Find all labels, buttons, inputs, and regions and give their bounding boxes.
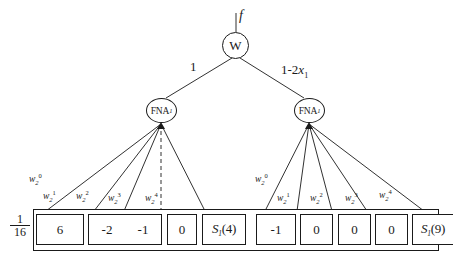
weight-sub: 2 — [261, 179, 264, 186]
tape-cell-right-4[interactable]: S1(9) — [412, 214, 453, 245]
fna-node-right-subscript: 1 — [317, 107, 320, 114]
weight-label-right-4: w24 — [379, 188, 392, 202]
tape-cell-right-0[interactable]: -1 — [256, 214, 296, 245]
tape-cell-function: S1(9) — [421, 221, 445, 238]
tape-cell-value: -1 — [271, 222, 282, 238]
weight-sup: 1 — [53, 189, 56, 196]
weight-sub: 2 — [283, 198, 286, 205]
branch-label-left: 1 — [190, 59, 197, 75]
weight-label-left-0: w20 — [29, 172, 42, 186]
weight-label-right-1: w21 — [277, 191, 290, 205]
tape-cell-value: 6 — [57, 222, 64, 238]
edge-root-to-fna-left — [166, 58, 232, 98]
diagram-canvas: f W 1 1-2x1 FNA1 FNA1 w20 w21 w22 w23 w2… — [0, 0, 453, 258]
fna-node-right[interactable]: FNA1 — [294, 98, 325, 123]
weight-sup: 0 — [39, 172, 42, 179]
weight-sub: 2 — [316, 198, 319, 205]
weight-label-left-1: w21 — [43, 189, 56, 203]
weight-sup: 3 — [355, 191, 358, 198]
tape-cell-fn-arg: (4) — [222, 221, 236, 236]
weight-sup: 1 — [287, 191, 290, 198]
weight-sub: 2 — [151, 198, 154, 205]
tape-cell-value: 0 — [313, 222, 320, 238]
tape-cell-left-4[interactable]: S1(4) — [202, 214, 246, 245]
weight-sup: 4 — [155, 191, 158, 198]
weight-label-right-0: w20 — [255, 172, 268, 186]
weight-sup: 2 — [86, 189, 89, 196]
weight-sub: 2 — [35, 179, 38, 186]
branch-label-right: 1-2x1 — [281, 62, 308, 80]
weight-label-left-3: w23 — [108, 191, 121, 205]
coefficient-fraction: 1 16 — [10, 213, 30, 238]
function-label-f: f — [239, 8, 243, 24]
root-node-w[interactable]: W — [222, 32, 249, 59]
tape-cell-left-1-2[interactable]: -2 -1 — [88, 214, 162, 245]
edge-right-w1 — [297, 124, 309, 211]
weight-label-left-4: w24 — [145, 191, 158, 205]
tape-cell-right-2[interactable]: 0 — [338, 214, 371, 245]
fna-node-left-subscript: 1 — [169, 107, 172, 114]
tape-cell-right-3[interactable]: 0 — [375, 214, 408, 245]
fna-node-right-label: FNA — [299, 106, 317, 116]
weight-label-right-2: w22 — [310, 191, 323, 205]
arrowhead-right-fna — [305, 122, 313, 129]
tape-cell-value: 0 — [351, 222, 358, 238]
weight-sup: 2 — [320, 191, 323, 198]
tape-cell-right-1[interactable]: 0 — [300, 214, 333, 245]
tape-cell-fn-arg: (9) — [431, 221, 445, 236]
fna-node-left[interactable]: FNA1 — [146, 98, 177, 123]
branch-label-right-text: 1-2 — [281, 62, 298, 77]
branch-label-right-var-sub: 1 — [304, 71, 308, 80]
tape-cell-left-3[interactable]: 0 — [167, 214, 197, 245]
edge-left-w4 — [161, 124, 205, 211]
weight-sub: 2 — [351, 198, 354, 205]
weight-sup: 0 — [265, 172, 268, 179]
tape-cell-value-b: -1 — [138, 222, 149, 238]
weight-label-left-2: w22 — [76, 189, 89, 203]
tape-cell-value: 0 — [179, 222, 186, 238]
edge-right-w4 — [309, 124, 424, 211]
weight-sup: 4 — [389, 188, 392, 195]
tape-cell-left-0[interactable]: 6 — [36, 214, 84, 245]
tape-cell-value: 0 — [388, 222, 395, 238]
weight-label-right-3: w23 — [345, 191, 358, 205]
weight-sub: 2 — [385, 195, 388, 202]
weight-sup: 3 — [118, 191, 121, 198]
tape-cell-function: S1(4) — [212, 221, 236, 238]
weight-sub: 2 — [114, 198, 117, 205]
weight-sub: 2 — [49, 196, 52, 203]
coefficient-denominator: 16 — [10, 226, 30, 238]
weight-sub: 2 — [82, 196, 85, 203]
fna-node-left-label: FNA — [151, 106, 169, 116]
arrowhead-left-fna — [157, 122, 165, 129]
root-node-label: W — [229, 38, 241, 54]
coefficient-numerator: 1 — [10, 213, 30, 226]
tape-cell-value-a: -2 — [102, 222, 113, 238]
